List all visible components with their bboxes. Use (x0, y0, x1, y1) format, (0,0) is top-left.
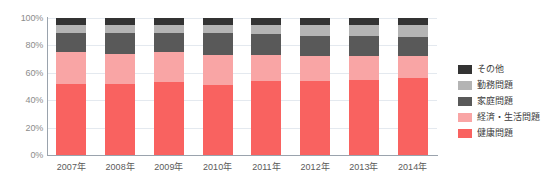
stacked-bar-chart: 0%20%40%60%80%100% 2007年2008年2009年2010年2… (0, 0, 558, 188)
x-tick-label: 2008年 (96, 160, 145, 173)
legend-item[interactable]: 健康問題 (458, 126, 556, 141)
x-axis-line (47, 155, 438, 156)
bar-segment[interactable] (398, 37, 428, 56)
y-tick-label: 100% (21, 13, 43, 23)
bar-segment[interactable] (203, 18, 233, 25)
bar-segment[interactable] (105, 33, 135, 54)
bar-segment[interactable] (300, 36, 330, 57)
y-tick-label: 80% (26, 40, 43, 50)
legend-swatch-icon (458, 97, 472, 106)
x-tick-label: 2014年 (388, 160, 437, 173)
bar-segment[interactable] (154, 33, 184, 52)
legend-item[interactable]: 勤務問題 (458, 78, 556, 93)
x-tick-label: 2011年 (242, 160, 291, 173)
x-tick-label: 2013年 (340, 160, 389, 173)
bar-segment[interactable] (154, 82, 184, 155)
x-tick-label: 2012年 (291, 160, 340, 173)
bar-segment[interactable] (349, 18, 379, 25)
bar-segment[interactable] (203, 85, 233, 155)
bar-segment[interactable] (398, 18, 428, 25)
bar-segment[interactable] (56, 18, 86, 25)
legend-swatch-icon (458, 65, 472, 74)
plot-area (47, 18, 437, 155)
bar-segment[interactable] (105, 18, 135, 25)
legend-label: 勤務問題 (477, 81, 513, 90)
bar-stack (105, 18, 135, 155)
bar-segment[interactable] (398, 25, 428, 37)
bar-segment[interactable] (56, 52, 86, 84)
legend-label: 健康問題 (477, 129, 513, 138)
legend-swatch-icon (458, 113, 472, 122)
bar-segment[interactable] (154, 25, 184, 33)
bar-stack (251, 18, 281, 155)
bar-segment[interactable] (300, 18, 330, 25)
bar-segment[interactable] (251, 55, 281, 81)
legend-item[interactable]: その他 (458, 62, 556, 77)
bar-segment[interactable] (56, 25, 86, 33)
bar-stack (154, 18, 184, 155)
bar-segment[interactable] (203, 25, 233, 33)
x-tick-label: 2009年 (145, 160, 194, 173)
legend-label: その他 (477, 65, 504, 74)
y-axis-labels: 0%20%40%60%80%100% (0, 0, 43, 188)
legend-label: 経済・生活問題 (477, 113, 540, 122)
bar-segment[interactable] (300, 56, 330, 81)
bar-group[interactable] (251, 18, 281, 155)
bar-group[interactable] (105, 18, 135, 155)
bar-segment[interactable] (251, 34, 281, 55)
bar-group[interactable] (300, 18, 330, 155)
bar-segment[interactable] (349, 56, 379, 79)
legend-swatch-icon (458, 81, 472, 90)
y-tick-label: 0% (30, 150, 43, 160)
bar-stack (300, 18, 330, 155)
y-tick-label: 60% (26, 68, 43, 78)
x-tick-label: 2010年 (193, 160, 242, 173)
bar-segment[interactable] (349, 25, 379, 36)
bar-segment[interactable] (203, 33, 233, 55)
y-tick-label: 40% (26, 95, 43, 105)
y-tick-label: 20% (26, 123, 43, 133)
y-axis-line (47, 17, 48, 156)
bar-group[interactable] (56, 18, 86, 155)
bar-stack (398, 18, 428, 155)
legend-swatch-icon (458, 129, 472, 138)
legend-label: 家庭問題 (477, 97, 513, 106)
bar-segment[interactable] (251, 18, 281, 25)
bar-segment[interactable] (251, 25, 281, 35)
bar-stack (203, 18, 233, 155)
bar-segment[interactable] (251, 81, 281, 155)
legend-item[interactable]: 経済・生活問題 (458, 110, 556, 125)
bar-segment[interactable] (105, 54, 135, 84)
bar-segment[interactable] (398, 56, 428, 78)
bar-segment[interactable] (300, 25, 330, 36)
bar-segment[interactable] (349, 80, 379, 155)
bar-group[interactable] (398, 18, 428, 155)
bar-segment[interactable] (203, 55, 233, 85)
bar-segment[interactable] (105, 84, 135, 155)
chart-legend: その他勤務問題家庭問題経済・生活問題健康問題 (458, 62, 556, 142)
x-tick-label: 2007年 (47, 160, 96, 173)
bar-stack (56, 18, 86, 155)
bar-segment[interactable] (349, 36, 379, 57)
bar-segment[interactable] (154, 52, 184, 82)
bar-segment[interactable] (154, 18, 184, 25)
bar-segment[interactable] (105, 25, 135, 33)
bar-segment[interactable] (300, 81, 330, 155)
bar-group[interactable] (349, 18, 379, 155)
legend-item[interactable]: 家庭問題 (458, 94, 556, 109)
bar-group[interactable] (154, 18, 184, 155)
bar-segment[interactable] (56, 33, 86, 52)
bar-group[interactable] (203, 18, 233, 155)
bar-segment[interactable] (398, 78, 428, 155)
bar-stack (349, 18, 379, 155)
bar-segment[interactable] (56, 84, 86, 155)
